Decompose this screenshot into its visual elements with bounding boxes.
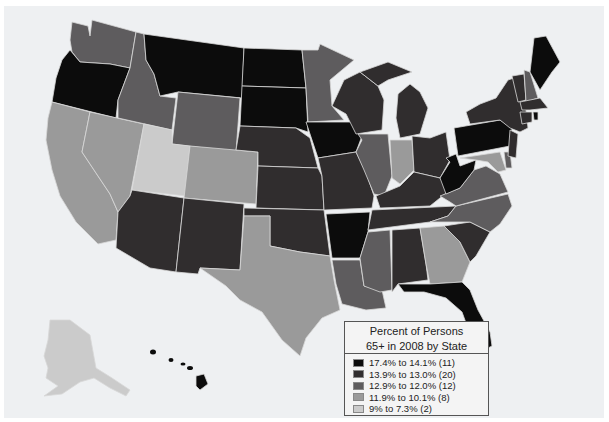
legend-label: 17.4% to 14.1% (11) [369,357,455,368]
legend-label: 11.9% to 10.1% (8) [369,392,450,403]
state-alaska[interactable] [44,320,130,396]
state-kansas[interactable] [256,166,324,210]
legend-item: 13.9% to 13.0% (20) [353,369,488,381]
legend-label: 9% to 7.3% (2) [369,403,432,414]
state-colorado[interactable] [184,146,258,204]
state-michigan-lower[interactable] [396,84,428,138]
state-hawaii[interactable] [150,350,208,391]
map-legend: Percent of Persons 65+ in 2008 by State … [344,321,489,416]
legend-item: 11.9% to 10.1% (8) [353,392,488,404]
legend-swatch [353,382,364,390]
state-arizona[interactable] [116,190,184,272]
state-pennsylvania[interactable] [454,120,512,156]
state-rhode-island[interactable] [533,112,538,120]
state-north-dakota[interactable] [242,48,306,88]
legend-label: 12.9% to 12.0% (12) [369,380,456,391]
state-new-jersey[interactable] [508,130,518,158]
legend-items: 17.4% to 14.1% (11) 13.9% to 13.0% (20) … [345,354,488,415]
legend-title-line2: 65+ in 2008 by State [345,339,488,354]
state-maine[interactable] [530,36,560,90]
legend-swatch [353,359,364,367]
legend-item: 12.9% to 12.0% (12) [353,380,488,392]
legend-swatch [353,370,364,378]
legend-item: 9% to 7.3% (2) [353,403,488,415]
legend-swatch [353,405,364,413]
state-new-mexico[interactable] [176,198,244,274]
state-montana[interactable] [144,34,244,98]
state-washington[interactable] [70,20,136,68]
legend-swatch [353,393,364,401]
legend-item: 17.4% to 14.1% (11) [353,357,488,369]
state-south-dakota[interactable] [240,86,308,132]
state-connecticut[interactable] [520,112,532,124]
legend-label: 13.9% to 13.0% (20) [369,369,456,380]
us-choropleth-map [0,0,609,422]
legend-title-line1: Percent of Persons [345,324,488,339]
legend-title: Percent of Persons 65+ in 2008 by State [345,322,488,354]
state-wyoming[interactable] [172,92,240,152]
